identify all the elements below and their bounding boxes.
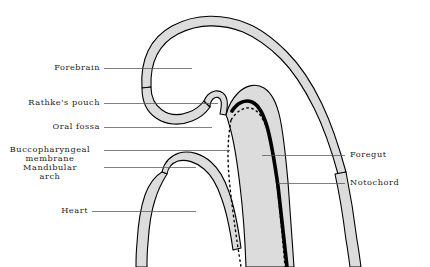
label-notochord: Notochord xyxy=(350,178,430,187)
anatomical-figure: Forebrain Rathke's pouch Oral fossa Bucc… xyxy=(0,0,430,267)
label-forebrain: Forebrain xyxy=(0,63,100,72)
label-mandibular-arch-line2: arch xyxy=(0,172,100,181)
label-foregut: Foregut xyxy=(350,150,430,159)
label-rathkes-pouch: Rathke's pouch xyxy=(0,98,100,107)
label-oral-fossa: Oral fossa xyxy=(0,122,100,131)
forebrain-lower-limb-shape xyxy=(142,87,210,124)
label-heart: Heart xyxy=(0,206,88,215)
embryo-sagittal-diagram xyxy=(0,0,430,267)
heart-shape xyxy=(136,172,167,267)
